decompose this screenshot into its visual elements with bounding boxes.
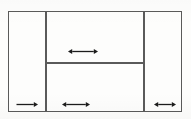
region-left-column [8,11,45,112]
left-column-width-arrow-icon [16,100,38,109]
region-center-lower [45,62,143,112]
region-right-column [143,11,182,112]
right-column-width-arrow-icon [154,100,176,109]
diagram-canvas [0,0,191,119]
center-lower-width-arrow-icon [62,100,90,109]
center-upper-width-arrow-icon [68,47,98,56]
